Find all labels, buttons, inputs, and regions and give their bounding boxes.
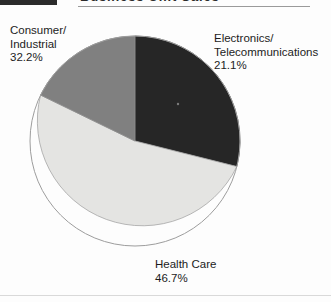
slice-value-health: 46.7%: [155, 272, 216, 286]
pie-slices: [37, 36, 240, 226]
slice-label-consumer-line1: Consumer/: [10, 24, 66, 36]
slice-label-health-care: Health Care 46.7%: [155, 258, 216, 285]
slice-label-consumer-line2: Industrial: [10, 38, 57, 50]
slice-label-electronics-line1: Electronics/: [214, 32, 273, 44]
slice-label-health-line1: Health Care: [155, 258, 216, 270]
scan-speck: [177, 103, 179, 105]
slice-label-electronics: Electronics/ Telecommunications 21.1%: [214, 32, 318, 73]
slice-label-consumer-industrial: Consumer/ Industrial 32.2%: [10, 24, 66, 65]
footer-divider: [0, 295, 331, 296]
slice-label-electronics-line2: Telecommunications: [214, 46, 318, 58]
figure-page: Business Unit Sales Consumer/ Industrial…: [0, 0, 331, 302]
slice-value-electronics: 21.1%: [214, 59, 318, 73]
slice-value-consumer: 32.2%: [10, 51, 66, 65]
